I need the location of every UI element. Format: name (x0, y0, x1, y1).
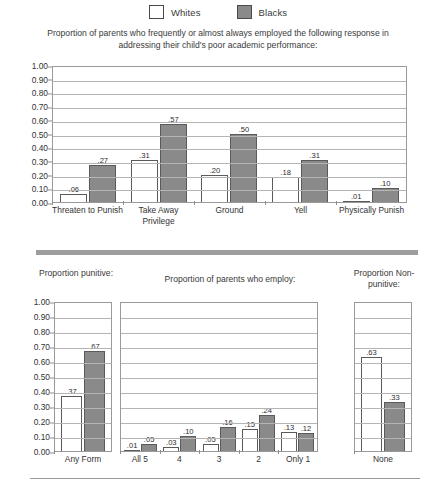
gridline (55, 363, 111, 364)
bar-group: .37.67 (55, 303, 111, 451)
x-axis-tick (265, 201, 266, 205)
gridline (53, 177, 406, 178)
x-axis-tick (160, 450, 161, 454)
nonpunitive-chart-x-axis: None (354, 454, 412, 465)
bar-blacks: .16 (220, 427, 236, 451)
bar-value-label: .20 (210, 166, 221, 175)
x-axis-tick (354, 450, 355, 454)
bar-whites: .03 (163, 447, 179, 452)
bar-value-label: .01 (127, 441, 138, 450)
bar-value-label: .31 (309, 151, 320, 160)
right-edge-tick (411, 348, 412, 349)
x-axis-tick (52, 201, 53, 205)
main-bar-chart: 1.000.900.800.700.600.500.400.300.200.10… (0, 56, 436, 204)
bar-group: .05.16 (199, 303, 238, 451)
y-axis-tick: 0.70 (32, 103, 48, 112)
nonpunitive-chart-right-ticks (355, 303, 411, 451)
gridline (53, 81, 406, 82)
y-axis-tick: 0.10 (34, 433, 50, 442)
y-axis-tick: 0.20 (34, 418, 50, 427)
x-axis-category-label: 2 (239, 454, 279, 465)
employ-chart-bars: .01.05.03.10.05.16.15.24.13.12 (121, 303, 317, 451)
punitive-chart-x-axis: Any Form (54, 454, 112, 465)
gridline (53, 149, 406, 150)
right-edge-tick (411, 378, 412, 379)
y-axis-tick: 0.50 (34, 373, 50, 382)
gridline (53, 136, 406, 137)
x-axis-category-label: 4 (160, 454, 200, 465)
x-axis-tick (120, 450, 121, 454)
bar-whites: .01 (124, 450, 140, 452)
bar-value-label: .10 (183, 427, 194, 436)
bar-value-label: .67 (89, 342, 100, 351)
bar-group: .20.50 (194, 67, 265, 202)
bar-value-label: .15 (244, 420, 255, 429)
y-axis-tick: 0.10 (32, 185, 48, 194)
gridline (55, 438, 111, 439)
legend-entry-blacks: Blacks (237, 5, 288, 19)
punitive-chart-plot-area: .37.67 (54, 302, 112, 452)
employ-chart-plot-area: .01.05.03.10.05.16.15.24.13.12 (120, 302, 318, 452)
gridline (55, 378, 111, 379)
section-divider (36, 250, 418, 255)
bar-blacks: .31 (301, 160, 328, 202)
bar-value-label: .05 (205, 435, 216, 444)
right-edge-tick (411, 438, 412, 439)
gridline (355, 348, 411, 349)
bar-blacks: .27 (89, 165, 116, 202)
bar-value-label: .05 (144, 435, 155, 444)
bar-value-label: .31 (139, 151, 150, 160)
bar-blacks: .05 (141, 444, 157, 452)
employ-chart-caption: Proportion of parents who employ: (130, 274, 330, 285)
gridline (121, 333, 317, 334)
right-edge-tick (411, 408, 412, 409)
bar-whites: .15 (242, 429, 258, 452)
bar-whites: .05 (203, 444, 219, 452)
x-axis-category-label: 3 (199, 454, 239, 465)
gridline (55, 348, 111, 349)
legend-entry-whites: Whites (149, 5, 201, 19)
bar-group: .01.05 (121, 303, 160, 451)
gridline (121, 393, 317, 394)
y-axis-tick: 0.40 (32, 144, 48, 153)
punitive-chart-y-axis: 1.000.900.800.700.600.500.400.300.200.10… (18, 302, 50, 452)
x-axis-category-label: Threaten to Punish (52, 205, 123, 226)
bar-group: .01.10 (335, 67, 406, 202)
x-axis-tick (239, 450, 240, 454)
bar-group: .03.10 (160, 303, 199, 451)
x-axis-category-label: Yell (265, 205, 336, 226)
x-axis-tick (199, 450, 200, 454)
y-axis-tick: 0.80 (32, 89, 48, 98)
main-chart-bars: .06.27.31.57.20.50.18.31.01.10 (53, 67, 406, 202)
bar-group: .13.12 (278, 303, 317, 451)
legend-label-whites: Whites (171, 7, 201, 18)
bar-whites: .31 (131, 160, 158, 202)
chart-legend: Whites Blacks (0, 5, 436, 19)
bar-value-label: .10 (380, 179, 391, 188)
y-axis-tick: 0.80 (34, 328, 50, 337)
footer-rule (30, 478, 420, 479)
gridline (121, 348, 317, 349)
nonpunitive-chart-caption: Proportion Non-punitive: (338, 268, 430, 290)
gridline (121, 438, 317, 439)
main-chart-x-axis: Threaten to PunishTake Away PrivilegeGro… (52, 205, 407, 226)
bar-value-label: .01 (351, 192, 362, 201)
white-swatch-icon (149, 5, 164, 19)
x-axis-tick (336, 201, 337, 205)
main-chart-caption: Proportion of parents who frequently or … (38, 28, 398, 51)
x-axis-tick (194, 201, 195, 205)
bar-blacks: .12 (298, 433, 314, 451)
bar-value-label: .37 (66, 387, 77, 396)
y-axis-tick: 0.50 (32, 130, 48, 139)
nonpunitive-chart-plot-area: .63.33 (354, 302, 412, 452)
y-axis-tick: 0.90 (34, 313, 50, 322)
bar-group: .18.31 (265, 67, 336, 202)
legend-label-blacks: Blacks (259, 7, 288, 18)
x-axis-category-label: All 5 (120, 454, 160, 465)
right-edge-tick (411, 423, 412, 424)
gridline (355, 333, 411, 334)
x-axis-tick (123, 201, 124, 205)
x-axis-category-label: None (354, 454, 412, 465)
gridline (53, 122, 406, 123)
gridline (355, 318, 411, 319)
